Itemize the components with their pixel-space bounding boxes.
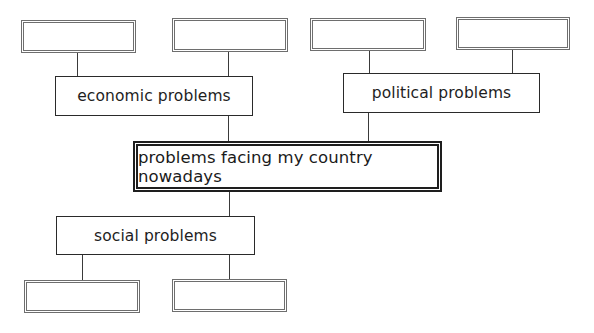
economic-sub-item-box-1[interactable]	[21, 20, 136, 53]
connector-economic-blank-1	[77, 53, 78, 76]
connector-political-blank-1	[369, 51, 370, 73]
economic-sub-item-box-2[interactable]	[172, 18, 288, 52]
political-problems-box: political problems	[343, 73, 540, 113]
social-sub-item-box-2[interactable]	[172, 279, 287, 312]
social-problems-label: social problems	[94, 227, 217, 245]
social-sub-item-box-1[interactable]	[24, 280, 140, 313]
economic-problems-box: economic problems	[55, 76, 253, 116]
central-topic-box: problems facing my country nowadays	[133, 141, 442, 192]
connector-economic-central	[228, 116, 229, 141]
political-sub-item-box-1[interactable]	[310, 18, 426, 51]
connector-political-blank-2	[512, 50, 513, 73]
connector-central-social	[229, 192, 230, 216]
economic-problems-label: economic problems	[77, 87, 231, 105]
connector-social-blank-1	[82, 255, 83, 280]
political-problems-label: political problems	[372, 84, 512, 102]
connector-social-blank-2	[229, 255, 230, 279]
connector-economic-blank-2	[228, 52, 229, 76]
connector-political-central	[368, 113, 369, 141]
social-problems-box: social problems	[56, 216, 255, 255]
political-sub-item-box-2[interactable]	[456, 17, 570, 50]
central-topic-label: problems facing my country nowadays	[138, 148, 437, 186]
mind-map-diagram: economic problems political problems pro…	[0, 0, 594, 333]
